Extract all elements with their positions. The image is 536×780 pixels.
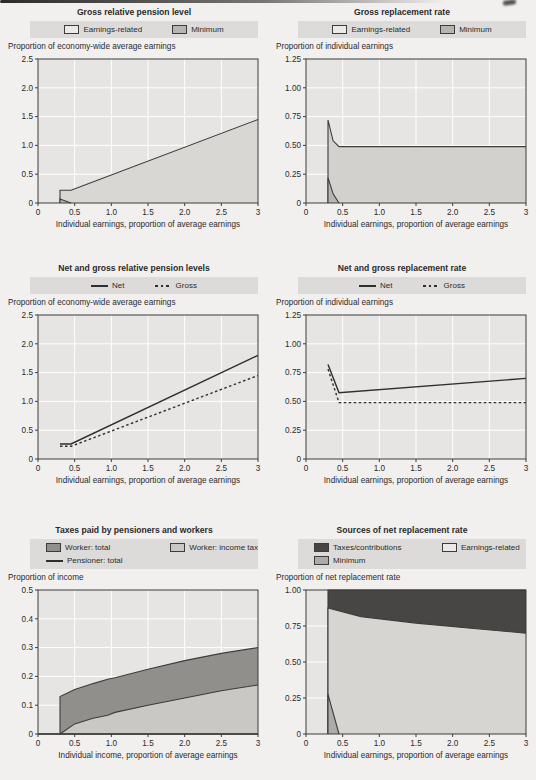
- y-tick-label: 1.5: [22, 368, 34, 377]
- x-tick-label: 1.0: [106, 464, 118, 473]
- x-tick-label: 1.0: [374, 464, 386, 473]
- legend-label: Pensioner: total: [67, 556, 123, 565]
- x-axis-label: Individual income, proportion of average…: [58, 751, 237, 760]
- y-tick-label: 2.5: [22, 311, 34, 320]
- x-tick-label: 3: [256, 464, 261, 473]
- x-tick-label: 0.5: [69, 739, 81, 748]
- chart-plot: 00.250.500.751.0000.51.01.52.02.53Indivi…: [268, 584, 536, 774]
- y-axis-unit-label: Proportion of economy-wide average earni…: [8, 41, 268, 52]
- legend-row: Minimum: [298, 554, 526, 567]
- y-tick-label: 0.2: [22, 672, 34, 681]
- y-tick-label: 0: [28, 730, 33, 739]
- y-tick-label: 0: [28, 199, 33, 208]
- y-tick-label: 1.25: [285, 55, 301, 64]
- legend-label: Minimum: [459, 25, 491, 34]
- legend-swatch-line: [91, 285, 108, 287]
- chart-legend: Worker: totalWorker: income taxPensioner…: [30, 539, 258, 569]
- x-tick-label: 0: [304, 739, 309, 748]
- y-tick-label: 0: [28, 455, 33, 464]
- y-tick-label: 1.5: [22, 112, 34, 121]
- legend-item-taxes-contributions: Taxes/contributions: [314, 543, 432, 552]
- y-tick-label: 1.0: [22, 397, 34, 406]
- x-tick-label: 1.0: [106, 739, 118, 748]
- x-tick-label: 0: [36, 739, 41, 748]
- chart-title: Gross relative pension level: [0, 6, 268, 18]
- legend-label: Earnings-related: [83, 25, 142, 34]
- y-tick-label: 0.1: [22, 701, 34, 710]
- legend-item-gross: Gross: [423, 281, 465, 290]
- x-tick-label: 0.5: [69, 464, 81, 473]
- chart-plot: 00.250.500.751.001.2500.51.01.52.02.53In…: [268, 309, 536, 499]
- x-tick-label: 2.0: [179, 464, 191, 473]
- chart-title: Gross replacement rate: [268, 6, 536, 18]
- legend-item-pensioner-total: Pensioner: total: [46, 556, 164, 565]
- legend-swatch-box: [172, 25, 187, 34]
- y-tick-label: 0.50: [285, 141, 301, 150]
- y-tick-label: 0: [296, 199, 301, 208]
- x-axis-label: Individual earnings, proportion of avera…: [324, 751, 508, 760]
- legend-swatch-box: [332, 25, 347, 34]
- x-tick-label: 2.0: [447, 208, 459, 217]
- legend-label: Worker: total: [65, 543, 110, 552]
- x-tick-label: 0.5: [69, 208, 81, 217]
- legend-item-minimum: Minimum: [314, 556, 432, 565]
- chart-plot: 00.51.01.52.02.500.51.01.52.02.53Individ…: [0, 309, 268, 499]
- y-tick-label: 0.75: [285, 368, 301, 377]
- legend-label: Gross: [176, 281, 197, 290]
- legend-row: Pensioner: total: [30, 554, 258, 567]
- chart-plot: 00.250.500.751.001.2500.51.01.52.02.53In…: [268, 53, 536, 243]
- x-tick-label: 1.0: [374, 739, 386, 748]
- chart-gross-relative-pension-level: Gross relative pension level Earnings-re…: [0, 6, 268, 243]
- x-tick-label: 0: [36, 464, 41, 473]
- legend-swatch-box: [170, 543, 185, 552]
- legend-item-worker-total: Worker: total: [46, 543, 160, 552]
- legend-swatch-box: [64, 25, 79, 34]
- y-tick-label: 0: [296, 730, 301, 739]
- x-tick-label: 3: [524, 739, 529, 748]
- legend-label: Minimum: [191, 25, 223, 34]
- x-tick-label: 0.5: [337, 464, 349, 473]
- x-axis-label: Individual earnings, proportion of avera…: [56, 220, 240, 229]
- x-tick-label: 0: [36, 208, 41, 217]
- x-tick-label: 1.5: [142, 464, 154, 473]
- legend-swatch-box: [46, 543, 61, 552]
- y-tick-label: 2.5: [22, 55, 34, 64]
- chart-net-gross-relative-pension-levels: Net and gross relative pension levels Ne…: [0, 262, 268, 499]
- y-tick-label: 2.0: [22, 340, 34, 349]
- x-tick-label: 2.5: [484, 739, 496, 748]
- y-axis-unit-label: Proportion of economy-wide average earni…: [8, 297, 268, 308]
- x-tick-label: 1.0: [106, 208, 118, 217]
- x-tick-label: 2.0: [447, 739, 459, 748]
- y-tick-label: 0.75: [285, 112, 301, 121]
- chart-legend: NetGross: [30, 277, 258, 294]
- x-tick-label: 2.5: [484, 208, 496, 217]
- legend-item-earnings-related: Earnings-related: [64, 25, 142, 34]
- x-tick-label: 0: [304, 464, 309, 473]
- legend-item-net: Net: [91, 281, 124, 290]
- x-tick-label: 0.5: [337, 739, 349, 748]
- x-tick-label: 1.0: [374, 208, 386, 217]
- legend-item-earnings-related: Earnings-related: [442, 543, 520, 552]
- x-tick-label: 1.5: [142, 739, 154, 748]
- legend-swatch-box: [314, 543, 329, 552]
- chart-title: Net and gross replacement rate: [268, 262, 536, 274]
- chart-legend: Earnings-relatedMinimum: [30, 21, 258, 38]
- legend-label: Minimum: [333, 556, 365, 565]
- chart-plot: 00.51.01.52.02.500.51.01.52.02.53Individ…: [0, 53, 268, 243]
- legend-row: NetGross: [298, 279, 526, 292]
- y-tick-label: 0.3: [22, 643, 34, 652]
- chart-legend: NetGross: [298, 277, 526, 294]
- legend-swatch-line: [46, 560, 63, 562]
- x-tick-label: 2.0: [179, 739, 191, 748]
- chart-legend: Taxes/contributionsEarnings-relatedMinim…: [298, 539, 526, 569]
- x-tick-label: 2.5: [216, 464, 228, 473]
- legend-row: Worker: totalWorker: income tax: [30, 541, 258, 554]
- legend-item-worker-income-tax: Worker: income tax: [170, 543, 258, 552]
- legend-label: Net: [112, 281, 124, 290]
- y-tick-label: 0.5: [22, 426, 34, 435]
- legend-swatch-dashed-line: [423, 285, 440, 287]
- y-tick-label: 0.5: [22, 586, 34, 595]
- legend-swatch-line: [359, 285, 376, 287]
- x-tick-label: 3: [256, 208, 261, 217]
- y-axis-unit-label: Proportion of individual earnings: [276, 297, 536, 308]
